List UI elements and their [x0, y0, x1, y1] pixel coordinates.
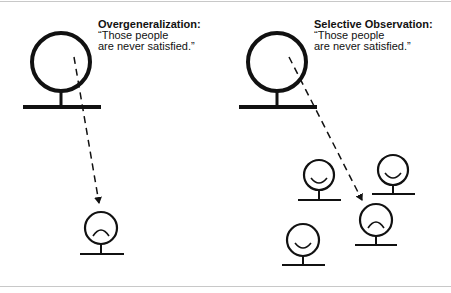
observer-right-large-person-icon: [239, 33, 317, 107]
observed-right-happy-person-icon-2: [372, 155, 415, 194]
observed-left-sad-person-icon: [80, 212, 124, 254]
observed-right-sad-person-icon: [355, 204, 397, 245]
observer-left-large-person-icon: [23, 33, 101, 107]
observed-right-happy-person-icon-3: [282, 224, 325, 265]
caption-overgeneralization: Overgeneralization: “Those people are ne…: [98, 19, 201, 52]
caption-quote-line2: are never satisfied.”: [314, 41, 433, 52]
caption-quote-line2: are never satisfied.”: [98, 41, 201, 52]
caption-selective-observation: Selective Observation: “Those people are…: [314, 19, 433, 52]
observed-right-happy-person-icon-1: [298, 160, 341, 200]
